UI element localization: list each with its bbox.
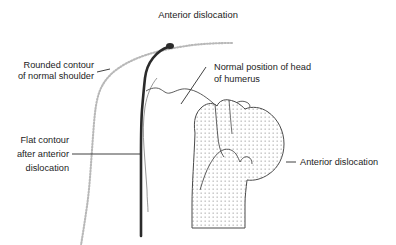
- anterior-dislocation-figure: Anterior dislocation: [0, 0, 396, 245]
- label-anterior-dislocation-right: Anterior dislocation: [300, 157, 378, 167]
- label-flat-contour-line3: dislocation: [26, 163, 69, 173]
- label-normal-position-line1: Normal position of head: [214, 62, 311, 72]
- label-rounded-contour-line1: Rounded contour: [24, 60, 95, 70]
- leader-normal-position: [181, 67, 206, 104]
- label-normal-position-line2: of humerus: [214, 74, 260, 84]
- soft-tissue-contour: [143, 78, 157, 212]
- figure-title: Anterior dislocation: [158, 9, 238, 20]
- leader-rounded-contour: [97, 69, 110, 72]
- humeral-head-bone: [192, 100, 284, 228]
- label-flat-contour-line2: after anterior: [17, 149, 69, 159]
- flat-shoulder-contour: [141, 43, 174, 236]
- label-rounded-contour-line2: of normal shoulder: [18, 71, 94, 81]
- label-flat-contour-line1: Flat contour: [20, 135, 69, 145]
- shoulder-dislocation-diagram: Anterior dislocation: [0, 0, 396, 245]
